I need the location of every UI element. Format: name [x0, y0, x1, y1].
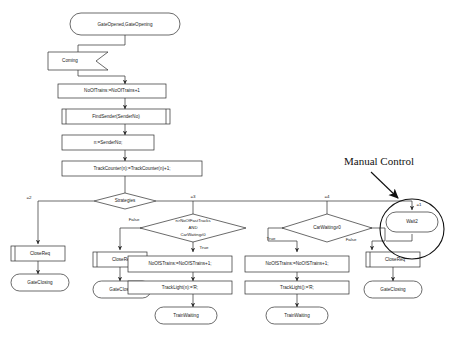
edge-label-fasttracks-false: False [129, 217, 140, 222]
node-decision-strategies-label: Strategies [115, 198, 136, 203]
edge-start-to-coming [78, 35, 125, 52]
edge-coming-to-trains [78, 70, 125, 84]
node-task-noOfSTrains-2[interactable]: NoOfSTrains:=NoOfSTrains+1; [245, 256, 349, 272]
node-task-trackLight-2-label: TrackLight():='R; [280, 285, 314, 290]
flowchart-svg: GateOpened,GateOpening Coming NoOfTrains… [0, 0, 449, 349]
edge-fasttracks-false [120, 228, 149, 250]
node-task-trackLight-2[interactable]: TrackLight():='R; [245, 281, 349, 294]
node-output-closereq-1[interactable]: CloseReq [11, 246, 65, 261]
node-task-noOfSTrains-1-label: NoOfSTrains:=NoOfSTrains+1; [148, 261, 211, 266]
node-start-state[interactable]: GateOpened,GateOpening [70, 13, 180, 35]
node-state-wait2-label: Wait2 [406, 219, 418, 224]
node-decision-fasttracks[interactable]: n>NoOfFastTracks AND CarWaiting≠0 [140, 214, 246, 242]
edge-label-strategies-eq4: =4 [324, 194, 330, 199]
node-task-trackCounter[interactable]: TrackCounter(n):=TrackCounter(n)+1; [62, 161, 202, 176]
node-state-trainwaiting-1-label: TrainWaiting [173, 313, 199, 318]
node-task-trackLight-1[interactable]: TrackLight(n):='R; [128, 281, 232, 294]
edge-wait2-down [386, 234, 412, 241]
edge-strategies-eq3 [156, 201, 193, 214]
node-state-trainwaiting-1[interactable]: TrainWaiting [155, 307, 217, 324]
node-task-noOfTrains[interactable]: NoOfTrains:=NoOfTrains+1 [58, 84, 166, 98]
node-input-coming[interactable]: Coming [48, 52, 108, 70]
node-decision-fasttracks-label-3: CarWaiting≠0 [180, 232, 206, 237]
node-decision-strategies[interactable]: Strategies [94, 193, 156, 209]
node-procedure-findSender-label: FindSender(SenderNo) [92, 114, 140, 119]
node-procedure-findSender[interactable]: FindSender(SenderNo) [62, 109, 170, 124]
node-state-gateclosing-1-label: GateClosing [27, 280, 53, 285]
node-state-trainwaiting-2-label: TrainWaiting [284, 313, 310, 318]
node-state-trainwaiting-2[interactable]: TrainWaiting [266, 307, 328, 324]
node-task-noOfSTrains-2-label: NoOfSTrains:=NoOfSTrains+1; [265, 261, 328, 266]
node-task-trackLight-1-label: TrackLight(n):='R; [162, 285, 198, 290]
edge-strategies-eq2 [38, 201, 94, 244]
annotation-manual-control-label: Manual Control [344, 155, 414, 167]
node-input-coming-label: Coming [62, 58, 78, 63]
node-state-gateclosing-3-label: GateClosing [380, 287, 406, 292]
node-decision-fasttracks-label-2: AND [189, 225, 198, 230]
node-state-gateclosing-3[interactable]: GateClosing [364, 281, 422, 298]
node-task-noOfSTrains-1[interactable]: NoOfSTrains:=NoOfSTrains+1; [128, 256, 232, 272]
annotation-arrow [371, 172, 398, 198]
edge-label-strategies-eq1: =1 [416, 202, 422, 207]
edge-strategies-eq1 [327, 201, 412, 210]
node-decision-fasttracks-label-1: n>NoOfFastTracks [175, 218, 210, 223]
edge-label-carwaiting-true: True [267, 236, 276, 241]
node-decision-carwaiting[interactable]: CarWaiting≠0 [282, 214, 372, 242]
node-output-closereq-1-label: CloseReq [30, 251, 51, 256]
node-state-wait2[interactable]: Wait2 [386, 212, 438, 232]
node-state-gateclosing-1[interactable]: GateClosing [11, 274, 69, 291]
node-task-n-assign-label: n:=SenderNo; [94, 140, 122, 145]
edge-label-carwaiting-false: False [346, 237, 357, 242]
edge-label-fasttracks-true: True [200, 245, 209, 250]
node-task-noOfTrains-label: NoOfTrains:=NoOfTrains+1 [84, 88, 140, 93]
annotation-manual-control: Manual Control [344, 155, 444, 259]
diagram-canvas: GateOpened,GateOpening Coming NoOfTrains… [0, 0, 449, 349]
edge-strategies-eq4 [193, 201, 327, 214]
node-task-trackCounter-label: TrackCounter(n):=TrackCounter(n)+1; [93, 166, 170, 171]
node-task-n-assign[interactable]: n:=SenderNo; [62, 135, 154, 150]
edge-label-strategies-eq2: =2 [26, 195, 32, 200]
node-decision-carwaiting-label: CarWaiting≠0 [313, 225, 341, 230]
node-start-state-label: GateOpened,GateOpening [98, 22, 153, 27]
edge-label-strategies-eq3: =3 [190, 194, 196, 199]
